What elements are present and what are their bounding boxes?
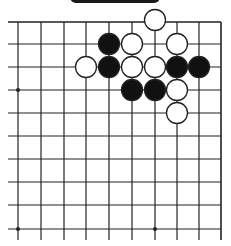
black-stone [145,80,166,101]
white-stone [122,57,143,78]
white-stone [145,57,166,78]
star-point [153,227,157,231]
star-point [16,88,20,92]
black-stone [99,34,120,55]
white-stone [167,103,188,124]
white-stone [167,34,188,55]
go-board [0,0,231,246]
white-stone [76,57,97,78]
white-stone [122,34,143,55]
black-stone [122,80,143,101]
black-stone [189,57,210,78]
black-stone [167,57,188,78]
star-point [16,227,20,231]
white-stone [167,80,188,101]
white-stone [145,10,166,31]
black-stone [99,57,120,78]
